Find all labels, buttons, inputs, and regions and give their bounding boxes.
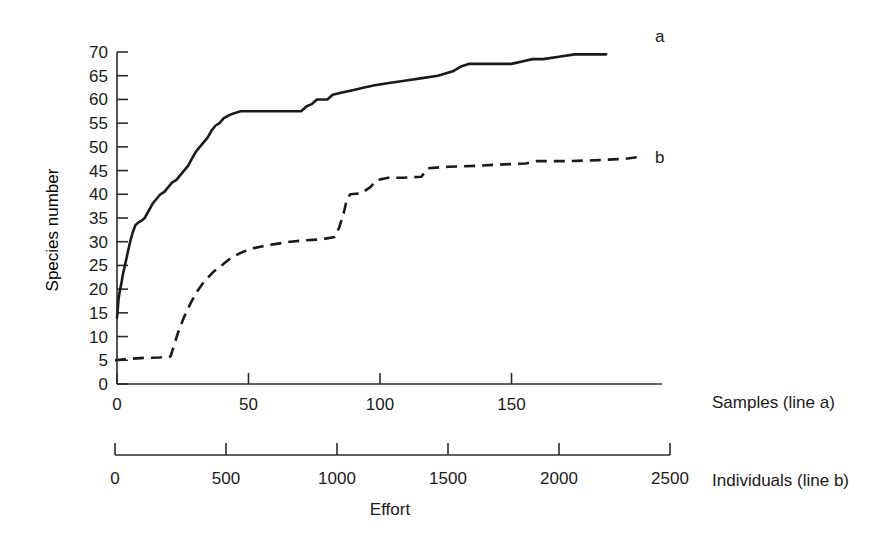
bottom-x-tick-label: 500 xyxy=(212,469,240,488)
top-x-tick-label: 150 xyxy=(497,395,525,414)
y-tick-label: 60 xyxy=(89,90,108,109)
y-axis-ticks-group xyxy=(117,52,128,384)
y-tick-label: 5 xyxy=(99,351,108,370)
effort-axis-title: Effort xyxy=(370,500,411,519)
top-x-tick-label: 100 xyxy=(366,395,394,414)
bottom-x-tick-label: 1000 xyxy=(318,469,356,488)
bottom-x-axis-tick-labels-group: 05001000150020002500 xyxy=(110,469,689,488)
bottom-x-tick-label: 1500 xyxy=(429,469,467,488)
figure-container: 0510152025303540455055606570 050100150 0… xyxy=(0,0,887,540)
y-tick-label: 40 xyxy=(89,185,108,204)
y-tick-label: 25 xyxy=(89,256,108,275)
top-x-axis-tick-labels-group: 050100150 xyxy=(112,395,525,414)
y-axis-tick-labels-group: 0510152025303540455055606570 xyxy=(89,43,108,394)
top-x-tick-label: 0 xyxy=(112,395,121,414)
y-tick-label: 10 xyxy=(89,328,108,347)
top-x-tick-label: 50 xyxy=(239,395,258,414)
y-tick-label: 55 xyxy=(89,114,108,133)
y-tick-label: 50 xyxy=(89,138,108,157)
bottom-x-tick-label: 2000 xyxy=(540,469,578,488)
y-axis-title: Species number xyxy=(43,168,62,291)
y-tick-label: 20 xyxy=(89,280,108,299)
y-tick-label: 30 xyxy=(89,233,108,252)
y-tick-label: 65 xyxy=(89,67,108,86)
top-x-axis-ticks-group xyxy=(117,373,512,384)
series-b-label: b xyxy=(655,148,664,167)
bottom-x-axis-title: Individuals (line b) xyxy=(712,471,849,490)
y-tick-label: 0 xyxy=(99,375,108,394)
series-a-label: a xyxy=(655,27,665,46)
top-x-axis-title: Samples (line a) xyxy=(712,393,835,412)
y-tick-label: 45 xyxy=(89,162,108,181)
y-tick-label: 70 xyxy=(89,43,108,62)
species-accumulation-chart: 0510152025303540455055606570 050100150 0… xyxy=(0,0,887,540)
y-tick-label: 15 xyxy=(89,304,108,323)
series-a-line xyxy=(117,54,606,317)
bottom-x-tick-label: 2500 xyxy=(651,469,689,488)
bottom-x-tick-label: 0 xyxy=(110,469,119,488)
bottom-x-axis-ticks-group xyxy=(115,443,670,455)
y-tick-label: 35 xyxy=(89,209,108,228)
series-b-line xyxy=(115,156,643,360)
